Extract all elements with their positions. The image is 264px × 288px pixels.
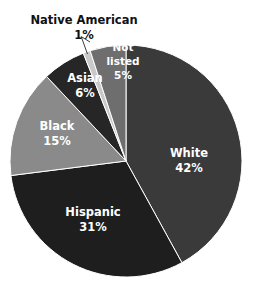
pie-label-not-listed-value: 5% <box>114 69 132 81</box>
pie-chart: Native American 1% Not listed 5% Asian 6… <box>0 0 264 288</box>
pie-label-asian-name: Asian <box>67 71 103 85</box>
pie-label-native-american: Native American 1% <box>30 13 137 42</box>
pie-label-black-value: 15% <box>43 134 71 148</box>
pie-label-asian-value: 6% <box>75 86 95 100</box>
pie-label-hispanic-name: Hispanic <box>65 205 121 219</box>
pie-label-white-value: 42% <box>175 161 203 175</box>
pie-label-not-listed-name-line1: Not <box>112 41 133 53</box>
pie-label-black-name: Black <box>40 119 75 133</box>
pie-label-black: Black 15% <box>40 119 75 148</box>
pie-label-native-american-name: Native American <box>30 13 137 27</box>
pie-label-not-listed-name-line2: listed <box>106 55 139 67</box>
pie-label-white-name: White <box>170 146 208 160</box>
pie-label-hispanic-value: 31% <box>79 220 107 234</box>
pie-chart-canvas: Native American 1% Not listed 5% Asian 6… <box>0 0 264 288</box>
pie-label-white: White 42% <box>170 146 208 175</box>
pie-label-native-american-value: 1% <box>74 28 94 42</box>
